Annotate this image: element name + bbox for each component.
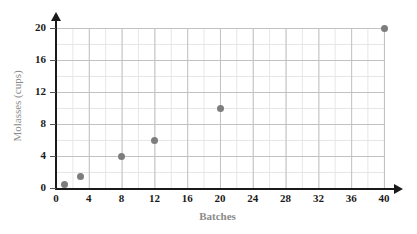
- x-tick-label: 4: [74, 192, 104, 204]
- y-tick-label: 20: [18, 21, 46, 33]
- y-axis-line: [55, 20, 57, 189]
- x-tick-label: 24: [238, 192, 268, 204]
- x-axis-title-text: Batches: [199, 210, 236, 222]
- plot-area: [56, 28, 384, 188]
- x-tick-label: 36: [336, 192, 366, 204]
- x-axis-title: Batches: [0, 210, 417, 222]
- y-tick-mark: [50, 124, 56, 125]
- x-tick-label: 28: [271, 192, 301, 204]
- data-point: [77, 173, 84, 180]
- x-tick-label: 8: [107, 192, 137, 204]
- data-point: [61, 181, 68, 188]
- y-tick-mark: [50, 156, 56, 157]
- x-tick-label: 32: [303, 192, 333, 204]
- y-tick-mark: [50, 60, 56, 61]
- data-point: [151, 137, 158, 144]
- data-point: [217, 105, 224, 112]
- data-point: [118, 153, 125, 160]
- y-tick-mark: [50, 188, 56, 189]
- x-axis-line: [55, 188, 396, 190]
- y-axis-arrow-icon: [51, 12, 61, 21]
- y-tick-mark: [50, 28, 56, 29]
- x-tick-label: 0: [41, 192, 71, 204]
- scatter-plot-figure: 0481216202428323640 048121620 Batches Mo…: [0, 0, 417, 234]
- y-tick-label: 0: [18, 181, 46, 193]
- y-tick-mark: [50, 92, 56, 93]
- y-axis-title: Molasses (cups): [11, 36, 23, 176]
- x-tick-label: 16: [172, 192, 202, 204]
- x-tick-label: 12: [139, 192, 169, 204]
- x-tick-label: 20: [205, 192, 235, 204]
- gridline-right-edge: [384, 28, 385, 188]
- data-point: [381, 25, 388, 32]
- x-tick-label: 40: [369, 192, 399, 204]
